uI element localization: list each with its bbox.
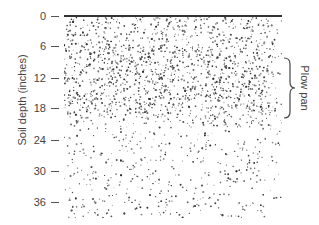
y-axis-label: Soil depth (inches) — [16, 54, 28, 145]
y-tick: 24 — [24, 140, 60, 152]
y-tick-mark — [51, 108, 59, 109]
y-tick-label: 12 — [34, 72, 46, 84]
plow-pan-bracket-icon — [282, 56, 298, 120]
y-tick-label: 36 — [34, 196, 46, 208]
y-tick-mark — [51, 140, 59, 141]
y-tick-label: 6 — [40, 40, 46, 52]
y-tick-mark — [51, 78, 59, 79]
y-tick-label: 18 — [34, 102, 46, 114]
y-tick: 12 — [24, 78, 60, 90]
soil-profile-stipple — [64, 16, 282, 218]
y-tick: 36 — [24, 202, 60, 214]
soil-surface-line — [64, 15, 282, 17]
y-tick-mark — [51, 16, 59, 17]
y-tick-label: 0 — [40, 10, 46, 22]
y-tick-mark — [51, 46, 59, 47]
y-tick-mark — [51, 171, 59, 172]
y-tick: 18 — [24, 108, 60, 120]
y-tick-label: 24 — [34, 134, 46, 146]
y-tick: 30 — [24, 171, 60, 183]
y-tick-label: 30 — [34, 165, 46, 177]
y-tick: 0 — [24, 16, 60, 28]
y-tick: 6 — [24, 46, 60, 58]
plow-pan-label: Plow pan — [299, 65, 311, 110]
y-tick-mark — [51, 202, 59, 203]
